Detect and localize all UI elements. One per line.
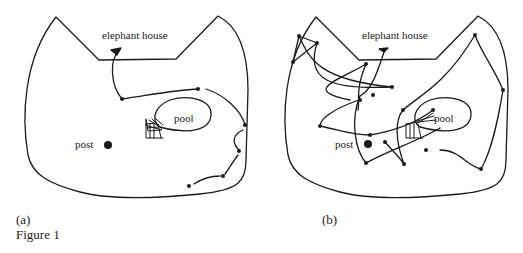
elephant-house-label-a: elephant house	[102, 30, 168, 41]
post-marker-a	[104, 141, 112, 149]
figure-caption: Figure 1	[16, 228, 60, 241]
pool-label-b: pool	[434, 113, 454, 124]
panel-label-b: (b)	[322, 213, 337, 226]
path-segment-a	[112, 52, 122, 99]
elephant-house-label-b: elephant house	[362, 30, 428, 41]
panel-label-a: (a)	[16, 213, 30, 226]
post-label-b: post	[335, 139, 353, 150]
pool-label-a: pool	[174, 113, 194, 124]
post-marker-b	[364, 140, 372, 148]
post-label-a: post	[75, 139, 93, 150]
figure-canvas	[0, 0, 523, 253]
enclosure-outline-a	[25, 16, 248, 198]
